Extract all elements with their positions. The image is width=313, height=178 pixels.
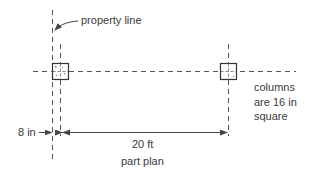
- drawing-caption: part plan: [121, 155, 164, 168]
- columns-note-line-3: square: [254, 109, 297, 124]
- span-dimension-label: 20 ft: [132, 138, 153, 151]
- offset-dimension-label: 8 in: [18, 126, 36, 139]
- property-line-leader: [55, 21, 78, 30]
- columns-note-line-2: are 16 in: [254, 95, 297, 110]
- columns-note: columns are 16 in square: [254, 80, 297, 124]
- columns-note-line-1: columns: [254, 80, 297, 95]
- property-line-label: property line: [81, 14, 142, 27]
